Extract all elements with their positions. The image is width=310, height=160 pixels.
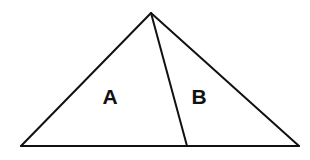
right-side [151,13,299,146]
region-label-a: A [102,85,117,108]
divider-line [151,13,187,146]
left-side [21,13,151,146]
triangle-diagram: A B [0,0,310,160]
region-label-b: B [191,85,206,108]
